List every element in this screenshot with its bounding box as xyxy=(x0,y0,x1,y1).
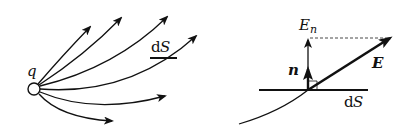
diagram-canvas: q d S En n E d S xyxy=(0,0,414,134)
field-vector-label: E xyxy=(371,54,384,72)
point-charge xyxy=(28,83,40,95)
field-line-1 xyxy=(38,27,90,84)
surface-label-S: S xyxy=(160,38,170,56)
field-line-2 xyxy=(39,18,121,85)
curved-surface xyxy=(239,90,308,124)
field-line-4 xyxy=(40,36,196,90)
left-figure: q d S xyxy=(27,17,196,121)
surface-label-S: S xyxy=(353,93,363,111)
field-line-3 xyxy=(40,17,167,86)
normal-component-label: En xyxy=(298,16,317,36)
field-line-5 xyxy=(40,92,165,105)
field-line-6 xyxy=(39,94,112,121)
right-figure: En n E d S xyxy=(239,16,390,124)
normal-vector-label: n xyxy=(288,61,299,79)
charge-label: q xyxy=(27,62,37,80)
